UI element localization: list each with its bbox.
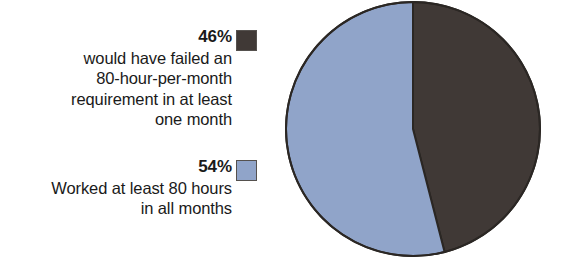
legend-description: Worked at least 80 hours in all months xyxy=(0,178,232,219)
legend-description-line: one month xyxy=(0,109,232,130)
light-blue-square-swatch-icon xyxy=(236,160,257,181)
pie-graphic xyxy=(284,0,562,258)
legend-percent-value: 46% xyxy=(198,27,232,48)
legend-description-line: requirement in at least xyxy=(0,89,232,110)
legend-description-line: in all months xyxy=(0,198,232,219)
legend-description-line: 80-hour-per-month xyxy=(0,68,232,89)
legend-entry-failed: 46% would have failed an 80-hour-per-mon… xyxy=(0,26,232,130)
legend-percent-value: 54% xyxy=(198,157,232,178)
pie-slices xyxy=(286,2,540,256)
legend-description-line: Worked at least 80 hours xyxy=(0,178,232,199)
pie-svg xyxy=(284,0,562,258)
pie-chart-figure: 46% would have failed an 80-hour-per-mon… xyxy=(0,0,562,258)
dark-square-swatch-icon xyxy=(236,30,257,51)
legend-description: would have failed an 80-hour-per-month r… xyxy=(0,48,232,130)
legend-entry-worked: 54% Worked at least 80 hours in all mont… xyxy=(0,156,232,219)
legend-description-line: would have failed an xyxy=(0,48,232,69)
